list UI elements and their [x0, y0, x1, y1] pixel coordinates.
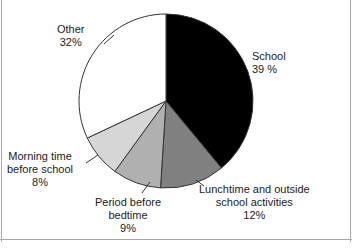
- frame-border-bottom: [0, 239, 352, 240]
- pie-slice-group: [79, 14, 253, 188]
- slice-label-morning: Morning time before school 8%: [7, 150, 73, 189]
- slice-label-morning-name-line1: Morning time: [8, 150, 72, 162]
- slice-label-school-name: School: [252, 50, 286, 62]
- pie-chart-figure: School 39 % Lunchtime and outside school…: [0, 0, 352, 248]
- leader-line-morning: [86, 155, 98, 163]
- slice-label-other-value: 32%: [57, 36, 85, 49]
- slice-label-school-value: 39 %: [252, 63, 286, 76]
- slice-label-lunchtime-name-line2: school activities: [199, 196, 310, 209]
- slice-label-bedtime-value: 9%: [95, 222, 161, 235]
- slice-label-morning-value: 8%: [7, 176, 73, 189]
- frame-border-left: [1, 0, 2, 242]
- slice-label-lunchtime-value: 12%: [199, 209, 310, 222]
- slice-label-lunchtime: Lunchtime and outside school activities …: [199, 183, 310, 222]
- slice-label-other-name: Other: [57, 23, 85, 35]
- slice-label-bedtime: Period before bedtime 9%: [95, 196, 161, 235]
- slice-label-bedtime-name-line1: Period before: [95, 196, 161, 208]
- slice-label-lunchtime-name-line1: Lunchtime and outside: [199, 183, 310, 195]
- slice-label-other: Other 32%: [57, 23, 85, 49]
- frame-border-right: [350, 0, 351, 242]
- slice-label-school: School 39 %: [252, 50, 286, 76]
- slice-label-morning-name-line2: before school: [7, 163, 73, 176]
- slice-label-bedtime-name-line2: bedtime: [95, 209, 161, 222]
